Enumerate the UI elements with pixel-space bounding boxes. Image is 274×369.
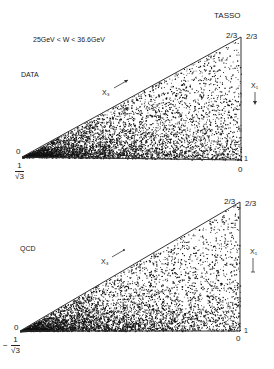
qcd-fraction-minus: − (3, 342, 8, 350)
fraction-denominator: √3 (15, 172, 24, 181)
data-apex-left-label: 2/3 (226, 32, 237, 40)
data-bottom-right-upper: 1 (244, 155, 248, 162)
qcd-x3-arrow (112, 250, 124, 257)
data-panel-label: DATA (21, 71, 39, 78)
data-apex-right-label: 2/3 (246, 33, 257, 41)
qcd-bottom-left-fraction: 1 √3 (11, 336, 20, 355)
qcd-apex-left-label: 2/3 (224, 198, 235, 206)
energy-range-label: 25GeV < W < 36.6GeV (33, 36, 105, 43)
data-bottom-left-fraction: 1 √3 (15, 162, 24, 181)
data-x3-label: X₃ (102, 89, 110, 96)
dalitz-plots (0, 0, 274, 369)
experiment-label: TASSO (214, 12, 241, 20)
qcd-bottom-right-lower: 0 (236, 335, 240, 343)
data-left-vertex-label: 0 (16, 148, 20, 156)
qcd-left-vertex-label: 0 (14, 324, 18, 332)
data-scatter-points (22, 42, 242, 162)
data-bottom-right-lower: 0 (238, 166, 242, 174)
data-x1-label: X₁ (251, 82, 258, 89)
fraction-numerator: 1 (15, 162, 24, 172)
qcd-x1-label: X₁ (250, 248, 257, 255)
qcd-x3-label: X₃ (101, 258, 109, 265)
qcd-bottom-right-upper: 1 (244, 327, 248, 334)
qcd-panel-label: QCD (20, 245, 36, 252)
fraction-numerator: 1 (11, 336, 20, 346)
qcd-apex-right-label: 2/3 (245, 200, 256, 208)
fraction-denominator: √3 (11, 346, 20, 355)
qcd-scatter-points (20, 205, 241, 332)
